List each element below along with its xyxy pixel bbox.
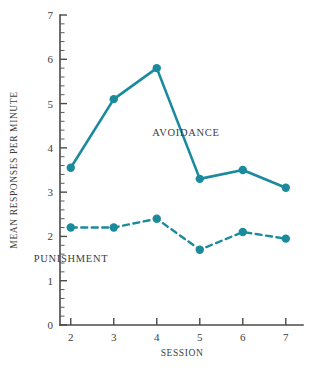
y-axis-ticks <box>60 15 67 325</box>
series-markers-group <box>67 64 290 254</box>
y-tick-label: 0 <box>48 319 54 331</box>
data-point-punishment <box>239 228 247 236</box>
y-axis-title: MEAN RESPONSES PER MINUTE <box>9 91 19 248</box>
y-tick-label: 1 <box>48 275 54 287</box>
data-point-avoidance <box>153 64 161 72</box>
y-tick-label: 7 <box>48 9 54 21</box>
axes-group <box>60 15 303 325</box>
x-tick-label: 4 <box>154 331 160 343</box>
x-axis-tick-labels: 234567 <box>68 331 289 343</box>
data-point-avoidance <box>67 164 75 172</box>
x-tick-label: 6 <box>240 331 246 343</box>
x-tick-label: 2 <box>68 331 74 343</box>
data-point-avoidance <box>282 184 290 192</box>
data-point-punishment <box>67 223 75 231</box>
x-axis-ticks <box>71 318 286 325</box>
series-line-punishment <box>71 219 286 250</box>
data-point-avoidance <box>239 166 247 174</box>
y-tick-label: 6 <box>48 53 54 65</box>
y-tick-label: 2 <box>48 230 54 242</box>
x-axis-title: SESSION <box>161 348 204 358</box>
series-annotation-punishment: PUNISHMENT <box>34 253 109 264</box>
data-point-punishment <box>196 246 204 254</box>
chart-figure: 01234567 234567 AVOIDANCEPUNISHMENT SESS… <box>0 0 313 368</box>
x-tick-label: 3 <box>111 331 117 343</box>
line-chart: 01234567 234567 AVOIDANCEPUNISHMENT SESS… <box>0 0 313 368</box>
x-tick-label: 7 <box>283 331 289 343</box>
data-point-avoidance <box>110 95 118 103</box>
series-lines-group <box>71 68 286 250</box>
data-point-punishment <box>110 223 118 231</box>
y-tick-label: 4 <box>48 142 54 154</box>
data-point-punishment <box>153 215 161 223</box>
data-point-avoidance <box>196 175 204 183</box>
y-tick-label: 3 <box>48 186 54 198</box>
series-annotation-avoidance: AVOIDANCE <box>152 127 219 138</box>
data-point-punishment <box>282 234 290 242</box>
y-tick-label: 5 <box>48 98 54 110</box>
y-axis-tick-labels: 01234567 <box>48 9 54 331</box>
x-tick-label: 5 <box>197 331 203 343</box>
